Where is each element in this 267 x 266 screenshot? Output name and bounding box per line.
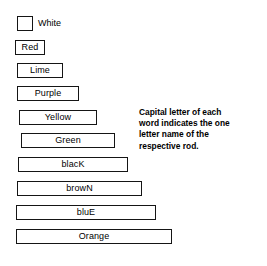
rod-black[interactable]: blacK (18, 157, 128, 172)
rod-brown[interactable]: browN (17, 181, 142, 196)
rod-label-orange: Orange (79, 232, 110, 241)
rod-green[interactable]: Green (21, 133, 115, 148)
rod-label-yellow: Yellow (45, 113, 71, 122)
rod-lime[interactable]: Lime (17, 63, 63, 78)
rod-purple[interactable]: Purple (17, 86, 79, 101)
rod-row-white: White (17, 16, 61, 31)
rod-row-blue: bluE (16, 205, 156, 220)
rod-row-orange: Orange (16, 229, 172, 244)
rod-label-white: White (38, 19, 61, 28)
note-line-1: Capital letter of each (139, 107, 263, 118)
rod-white[interactable] (17, 16, 33, 31)
rod-label-red: Red (22, 43, 39, 52)
rod-row-yellow: Yellow (19, 110, 97, 125)
rod-label-blue: bluE (77, 208, 95, 217)
rod-orange[interactable]: Orange (16, 229, 172, 244)
cuisenaire-rod-diagram: WhiteRedLimePurpleYellowGreenblacKbrowNb… (0, 0, 267, 266)
rod-label-purple: Purple (35, 89, 62, 98)
rod-row-black: blacK (18, 157, 128, 172)
rod-row-red: Red (15, 40, 45, 55)
note-line-3: letter name of the (139, 129, 263, 140)
note-line-2: word indicates the one (139, 118, 263, 129)
rod-label-black: blacK (61, 160, 84, 169)
rod-yellow[interactable]: Yellow (19, 110, 97, 125)
rod-row-brown: browN (17, 181, 142, 196)
rod-row-purple: Purple (17, 86, 79, 101)
rod-blue[interactable]: bluE (16, 205, 156, 220)
explanatory-note: Capital letter of each word indicates th… (139, 107, 263, 152)
rod-row-green: Green (21, 133, 115, 148)
rod-label-lime: Lime (30, 66, 50, 75)
note-line-4: respective rod. (139, 141, 263, 152)
rod-label-brown: browN (66, 184, 93, 193)
rod-red[interactable]: Red (15, 40, 45, 55)
rod-row-lime: Lime (17, 63, 63, 78)
rod-label-green: Green (55, 136, 81, 145)
